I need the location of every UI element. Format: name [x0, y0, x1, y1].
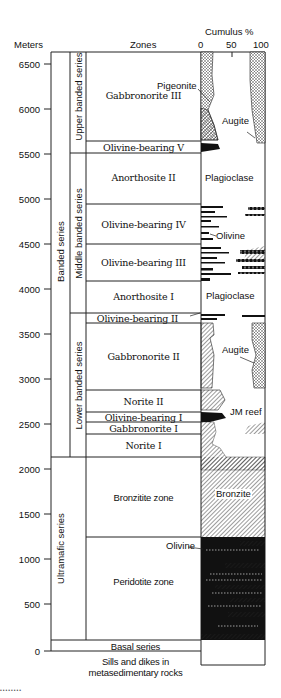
- zone-olivine-bearing-i: Olivine-bearing I: [86, 412, 201, 423]
- zone-gabbronorite-i: Gabbronorite I: [86, 423, 201, 434]
- label-jm-reef: JM reef: [230, 407, 262, 417]
- label-plagioclase-lower: Plagioclase: [206, 291, 255, 301]
- series-lower-banded: Lower banded series: [73, 336, 84, 436]
- zone-olivine-bearing-ii: Olivine-bearing II: [80, 313, 195, 324]
- zone-olivine-bearing-v: Olivine-bearing V: [86, 142, 201, 153]
- zone-norite-i: Norite I: [86, 440, 201, 451]
- base-label-line2: metasedimentary rocks: [70, 667, 201, 678]
- zone-olivine-bearing-iii: Olivine-bearing III: [86, 257, 201, 268]
- zone-anorthosite-ii: Anorthosite II: [86, 172, 201, 183]
- zone-olivine-bearing-iv: Olivine-bearing IV: [86, 219, 201, 230]
- zone-bronzitite: Bronzitite zone: [86, 492, 201, 503]
- series-ultramafic: Ultramafic series: [55, 491, 66, 607]
- label-olivine-ultramafic: Olivine: [166, 541, 195, 551]
- label-augite-lower: Augite: [222, 345, 249, 355]
- zone-gabbronorite-iii: Gabbronorite III: [86, 90, 201, 101]
- zone-gabbronorite-ii: Gabbronorite II: [86, 351, 201, 362]
- zone-anorthosite-i: Anorthosite I: [86, 291, 201, 302]
- base-label-line1: Sills and dikes in: [70, 656, 201, 667]
- label-pigeonite: Pigeonite: [157, 81, 197, 91]
- label-olivine-middle: Olivine: [216, 231, 245, 241]
- label-plagioclase-upper: Plagioclase: [205, 173, 254, 183]
- series-middle-banded: Middle banded series: [73, 184, 84, 284]
- label-bronzite: Bronzite: [215, 489, 252, 499]
- zone-norite-ii: Norite II: [86, 396, 201, 407]
- footer-dots: ••••••••: [0, 688, 22, 693]
- series-banded: Banded series: [55, 202, 66, 302]
- zone-basal-series: Basal series: [70, 641, 201, 652]
- label-augite-upper: Augite: [222, 116, 249, 126]
- zone-peridotite: Peridotite zone: [86, 576, 201, 587]
- series-upper-banded: Upper banded series: [73, 47, 84, 147]
- y-axis-ticks: [44, 64, 51, 651]
